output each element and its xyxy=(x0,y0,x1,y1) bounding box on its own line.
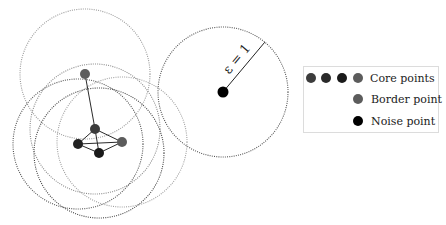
epsilon-label: ε = 1 xyxy=(220,41,253,77)
core-point xyxy=(90,124,100,134)
connection-edge xyxy=(78,142,122,144)
border-point xyxy=(80,69,90,79)
noise-point-icon xyxy=(353,116,363,126)
core-point xyxy=(117,137,127,147)
core-point xyxy=(73,139,83,149)
connection-edge xyxy=(85,74,95,129)
core-point-icon xyxy=(353,73,363,83)
legend-label-core: Core points xyxy=(370,72,435,85)
legend-label-noise: Noise point xyxy=(371,115,436,128)
density-connections xyxy=(78,74,122,153)
epsilon-neighborhoods xyxy=(13,9,288,218)
dbscan-diagram: ε = 1 Core points Border point Noise poi… xyxy=(0,0,446,225)
core-point xyxy=(94,148,104,158)
legend: Core points Border point Noise point xyxy=(304,67,443,133)
legend-label-border: Border point xyxy=(371,93,443,106)
epsilon-radius-indicator: ε = 1 xyxy=(220,41,265,92)
core-point-icon xyxy=(337,73,347,83)
border-point-icon xyxy=(353,94,363,104)
diagram-canvas: ε = 1 Core points Border point Noise poi… xyxy=(0,0,446,225)
core-point-icon xyxy=(321,73,331,83)
core-point-icon xyxy=(306,73,316,83)
noise-point xyxy=(218,87,229,98)
